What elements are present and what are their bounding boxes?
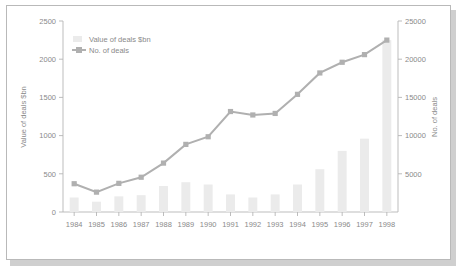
legend-swatch-bar — [73, 36, 82, 42]
figure: 05001000150020002500 5000100001500020000… — [0, 0, 459, 269]
marker-1998 — [384, 38, 389, 43]
y-tick-label-left: 500 — [43, 170, 56, 179]
y-axis-right-ticks: 500010000150002000025000 — [398, 17, 426, 179]
y-tick-label-left: 1500 — [39, 93, 56, 102]
bar-1984 — [70, 197, 79, 212]
legend-swatch-line-marker — [76, 47, 82, 53]
bar-1985 — [92, 202, 101, 212]
x-tick-label-1985: 1985 — [88, 220, 105, 229]
x-tick-label-1991: 1991 — [222, 220, 239, 229]
marker-1985 — [94, 190, 99, 195]
x-tick-label-1994: 1994 — [289, 220, 306, 229]
chart-canvas: 05001000150020002500 5000100001500020000… — [0, 0, 459, 269]
legend: Value of deals $bn No. of deals — [72, 35, 151, 55]
bar-1993 — [271, 194, 280, 212]
marker-1992 — [250, 112, 255, 117]
y-tick-label-right: 25000 — [405, 17, 426, 26]
marker-1991 — [228, 109, 233, 114]
bar-1997 — [360, 139, 369, 212]
y-axis-right-title: No. of deals — [430, 97, 439, 137]
bar-1998 — [382, 40, 391, 212]
x-tick-label-1984: 1984 — [66, 220, 83, 229]
y-tick-label-left: 2500 — [39, 17, 56, 26]
y-tick-label-left: 1000 — [39, 131, 56, 140]
legend-label-value-of-deals: Value of deals $bn — [89, 35, 151, 44]
bar-1990 — [204, 185, 213, 213]
x-tick-label-1987: 1987 — [133, 220, 150, 229]
x-tick-label-1993: 1993 — [267, 220, 284, 229]
x-tick-label-1997: 1997 — [356, 220, 373, 229]
bar-1991 — [226, 194, 235, 212]
x-tick-label-1988: 1988 — [155, 220, 172, 229]
bar-1996 — [338, 151, 347, 212]
marker-1984 — [72, 181, 77, 186]
chart-svg: 05001000150020002500 5000100001500020000… — [0, 0, 459, 269]
x-axis-ticks: 1984198519861987198819891990199119921993… — [66, 212, 395, 229]
bar-1988 — [159, 186, 168, 212]
marker-1995 — [317, 70, 322, 75]
y-tick-label-right: 10000 — [405, 131, 426, 140]
x-tick-label-1990: 1990 — [200, 220, 217, 229]
y-tick-label-right: 20000 — [405, 55, 426, 64]
y-tick-label-right: 15000 — [405, 93, 426, 102]
x-tick-label-1986: 1986 — [110, 220, 127, 229]
marker-1993 — [273, 111, 278, 116]
legend-label-no-of-deals: No. of deals — [89, 46, 129, 55]
bar-1986 — [114, 196, 123, 212]
marker-1990 — [206, 134, 211, 139]
x-tick-label-1992: 1992 — [244, 220, 261, 229]
bar-1992 — [248, 197, 257, 212]
y-tick-label-right: 5000 — [405, 170, 422, 179]
marker-1994 — [295, 92, 300, 97]
bar-series — [70, 40, 392, 212]
marker-1988 — [161, 161, 166, 166]
marker-1986 — [116, 181, 121, 186]
marker-1996 — [340, 60, 345, 65]
marker-1989 — [183, 142, 188, 147]
y-axis-left-ticks: 05001000150020002500 — [39, 17, 63, 217]
x-tick-label-1995: 1995 — [311, 220, 328, 229]
y-tick-label-left: 2000 — [39, 55, 56, 64]
x-tick-label-1989: 1989 — [177, 220, 194, 229]
y-tick-label-left: 0 — [52, 208, 56, 217]
bar-1989 — [181, 182, 190, 212]
bar-1987 — [137, 195, 146, 212]
marker-1997 — [362, 52, 367, 57]
bar-1994 — [293, 185, 302, 213]
bar-1995 — [315, 169, 324, 212]
x-tick-label-1996: 1996 — [334, 220, 351, 229]
y-axis-left-title: Value of deals $bn — [19, 86, 28, 148]
x-tick-label-1998: 1998 — [378, 220, 395, 229]
marker-1987 — [139, 175, 144, 180]
